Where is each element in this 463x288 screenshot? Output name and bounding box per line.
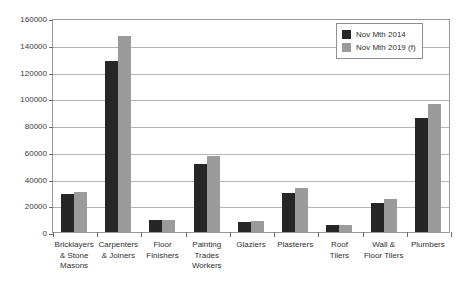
x-axis-tick <box>97 232 98 237</box>
bar <box>371 203 384 232</box>
x-axis-tick <box>186 232 187 237</box>
y-axis-tick-label: 0 <box>43 230 47 238</box>
bar <box>238 222 251 232</box>
legend-swatch-icon <box>342 30 351 39</box>
y-axis-tick-label: 140000 <box>20 43 47 51</box>
x-axis-tick <box>451 232 452 237</box>
x-axis-category-label-line: Masons <box>52 261 96 272</box>
x-axis-category-labels: Bricklayers& StoneMasonsCarpenters& Join… <box>52 240 450 286</box>
bar <box>207 156 220 232</box>
x-axis-category-label: Glaziers <box>229 240 273 251</box>
x-axis-category-label-line: & Stone <box>52 251 96 262</box>
bar <box>251 221 264 232</box>
x-axis-category-label: RoofTilers <box>317 240 361 261</box>
bar <box>149 220 162 232</box>
y-axis-tick-label: 60000 <box>25 150 47 158</box>
bar <box>339 225 352 232</box>
x-axis-tick <box>274 232 275 237</box>
x-axis-category-label-line: Workers <box>185 261 229 272</box>
bar-group <box>53 20 97 232</box>
chart-legend: Nov Mth 2014 Nov Mth 2019 (f) <box>336 23 423 59</box>
x-axis-tick <box>363 232 364 237</box>
x-axis-category-label-line: Glaziers <box>229 240 273 251</box>
x-axis-category-label-line: Floor Tilers <box>362 251 406 262</box>
bar <box>118 36 131 232</box>
x-axis-tick <box>318 232 319 237</box>
bar <box>282 193 295 232</box>
x-axis-category-label-line: Bricklayers <box>52 240 96 251</box>
x-axis-category-label: Wall &Floor Tilers <box>362 240 406 261</box>
x-axis-category-label-line: Floor <box>140 240 184 251</box>
x-axis-tick <box>53 232 54 237</box>
x-axis-category-label-line: Roof <box>317 240 361 251</box>
x-axis-category-label-line: Painting <box>185 240 229 251</box>
bar <box>428 104 441 232</box>
bar-group <box>274 20 318 232</box>
bar-group <box>97 20 141 232</box>
bar <box>326 225 339 232</box>
x-axis-category-label: Carpenters& Joiners <box>96 240 140 261</box>
legend-item-0: Nov Mth 2014 <box>342 28 416 41</box>
bar-group <box>141 20 185 232</box>
legend-swatch-icon <box>342 43 351 52</box>
bar <box>295 188 308 232</box>
bar <box>415 118 428 232</box>
legend-label: Nov Mth 2019 (f) <box>356 44 416 52</box>
bar <box>74 192 87 232</box>
x-axis-category-label-line: Plumbers <box>406 240 450 251</box>
bar-group <box>230 20 274 232</box>
x-axis-tick <box>230 232 231 237</box>
bar-chart: 0200004000060000800001000001200001400001… <box>0 0 463 288</box>
y-axis-tick-label: 80000 <box>25 123 47 131</box>
y-axis-tick-label: 20000 <box>25 203 47 211</box>
legend-item-1: Nov Mth 2019 (f) <box>342 41 416 54</box>
y-axis-tick-label: 120000 <box>20 70 47 78</box>
x-axis-category-label: PaintingTradesWorkers <box>185 240 229 272</box>
x-axis-tick <box>141 232 142 237</box>
x-axis-category-label: FloorFinishers <box>140 240 184 261</box>
x-axis-category-label-line: Carpenters <box>96 240 140 251</box>
x-axis-category-label-line: Wall & <box>362 240 406 251</box>
bar <box>384 199 397 232</box>
y-axis-tick-label: 100000 <box>20 96 47 104</box>
x-axis-category-label: Plumbers <box>406 240 450 251</box>
bar <box>61 194 74 232</box>
y-axis-tick-label: 40000 <box>25 177 47 185</box>
bar <box>162 220 175 232</box>
y-axis-tick-label: 160000 <box>20 16 47 24</box>
x-axis-category-label-line: Plasterers <box>273 240 317 251</box>
x-axis-category-label-line: Finishers <box>140 251 184 262</box>
x-axis-category-label: Bricklayers& StoneMasons <box>52 240 96 272</box>
x-axis-category-label-line: Trades <box>185 251 229 262</box>
x-axis-tick <box>407 232 408 237</box>
x-axis-category-label: Plasterers <box>273 240 317 251</box>
bar-group <box>186 20 230 232</box>
bar <box>105 61 118 232</box>
x-axis-category-label-line: & Joiners <box>96 251 140 262</box>
x-axis-category-label-line: Tilers <box>317 251 361 262</box>
legend-label: Nov Mth 2014 <box>356 31 406 39</box>
bar <box>194 164 207 232</box>
